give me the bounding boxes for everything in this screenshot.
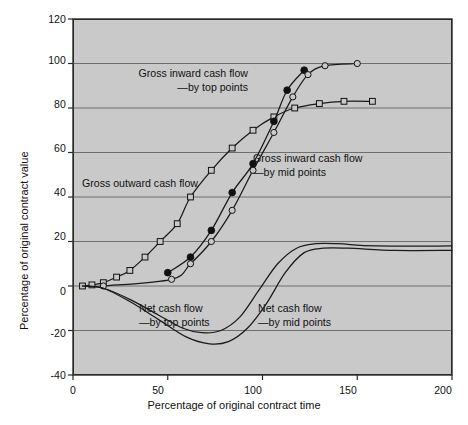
cash-flow-chart: 120 100 80 60 40 20 0 -20 -40 0 50 100 1… — [0, 0, 468, 425]
series-4 — [82, 248, 452, 344]
series-2 — [100, 60, 360, 289]
series-0 — [80, 98, 376, 288]
series-1 — [164, 67, 307, 276]
series-3 — [82, 243, 452, 333]
chart-graphics — [0, 0, 468, 425]
